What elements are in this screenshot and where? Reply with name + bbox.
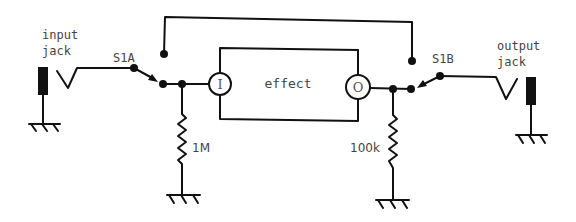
input-jack (29, 67, 134, 131)
input-jack-sleeve (38, 67, 48, 95)
input-jack-label-2: jack (42, 44, 72, 58)
switch-s1a (130, 50, 168, 88)
output-jack (440, 76, 547, 143)
resistor-100k-label: 100k (350, 141, 380, 155)
bypass-wire (164, 17, 412, 61)
switch-s1b-label: S1B (432, 52, 454, 66)
svg-text:I: I (217, 77, 222, 92)
ground-icon (376, 200, 409, 208)
effect-label: effect (265, 76, 312, 91)
output-jack-label-2: jack (497, 55, 527, 69)
output-jack-sleeve (526, 77, 536, 105)
input-jack-tip (57, 68, 134, 88)
output-jack-tip (440, 76, 517, 99)
switch-arrow-icon (417, 80, 427, 88)
circuit-diagram: input jack S1A 1M I O effect (0, 0, 576, 222)
output-jack-label-1: output (497, 39, 540, 53)
switch-s1a-label: S1A (113, 51, 135, 65)
switch-arrow-icon (148, 74, 158, 82)
svg-text:O: O (353, 80, 364, 95)
ground-icon (516, 135, 547, 143)
resistor-100k (376, 89, 409, 208)
resistor-1m-label: 1M (192, 141, 210, 155)
ground-icon (167, 195, 200, 203)
ground-icon (29, 124, 60, 131)
input-jack-label-1: input (42, 28, 78, 42)
